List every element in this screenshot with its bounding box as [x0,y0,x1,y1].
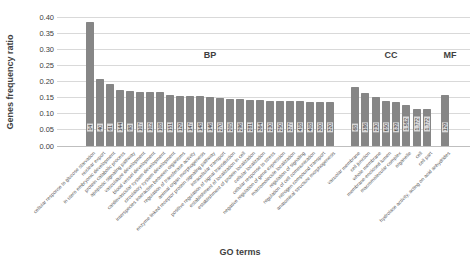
bar-value-label: 102 [147,122,153,132]
y-tick-label: 0.00 [22,142,54,151]
gridline [57,33,470,34]
go-bar-chart: Genes frequency ratio 144061144981071021… [0,0,475,272]
bar-value-label: 146 [207,122,213,132]
bar: 40 [96,79,104,146]
bar-value-label: 364 [257,122,263,132]
bar-value-label: 147 [187,122,193,132]
bar-value-label: 281 [247,122,253,132]
bar: 129 [441,95,449,146]
bar-value-label: 650 [383,122,389,132]
bar-value-label: 1,562 [403,117,409,132]
bar-value-label: 148 [197,122,203,132]
bar-value-label: 300 [317,122,323,132]
bar: 61 [106,84,114,146]
y-tick-label: 0.20 [22,77,54,86]
bar: 230 [266,101,274,146]
bar-value-label: 408 [307,122,313,132]
bar: 107 [136,92,144,146]
bar: 650 [382,101,390,146]
y-tick-label: 0.05 [22,125,54,134]
bar-value-label: 250 [277,122,283,132]
bar: 364 [256,100,264,146]
bar-value-label: 270 [217,122,223,132]
bar: 230 [372,97,380,146]
group-label-bp: BP [204,50,217,60]
bar-value-label: 108 [157,122,163,132]
bar-value-label: 377 [287,122,293,132]
bar: 250 [276,101,284,146]
gridline [57,65,470,66]
bar-value-label: 151 [167,122,173,132]
bar: 1,772 [413,109,421,146]
bar-value-label: 296 [237,122,243,132]
bar-value-label: 144 [117,122,123,132]
bar-value-label: 230 [267,122,273,132]
bar: 1,772 [423,109,431,146]
bar: 418 [296,101,304,146]
y-tick-label: 0.30 [22,45,54,54]
bar-value-label: 639 [393,122,399,132]
bar-value-label: 205 [227,122,233,132]
bar-value-label: 186 [362,122,368,132]
bar-value-label: 418 [297,122,303,132]
bar-value-label: 129 [442,122,448,132]
bar-value-label: 230 [373,122,379,132]
gridline [57,17,470,18]
bar: 148 [196,96,204,146]
bar: 270 [216,98,224,146]
y-tick-label: 0.25 [22,61,54,70]
bar: 281 [246,100,254,146]
bar: 205 [226,99,234,146]
y-tick-label: 0.35 [22,29,54,38]
bar: 377 [286,101,294,146]
bar-value-label: 1,772 [414,117,420,132]
bar: 151 [166,95,174,146]
bar: 300 [316,102,324,146]
y-axis-title: Genes frequency ratio [3,12,17,152]
group-label-cc: CC [385,50,398,60]
bar-value-label: 129 [177,122,183,132]
bar: 144 [116,90,124,146]
bar-value-label: 320 [327,122,333,132]
bar: 68 [351,87,359,146]
bar: 296 [236,99,244,146]
bar: 102 [146,92,154,146]
bar-value-label: 107 [137,122,143,132]
bar-value-label: 98 [127,124,133,132]
bar: 147 [186,96,194,146]
bar: 639 [392,102,400,146]
bar: 186 [361,93,369,146]
bar-value-label: 40 [97,124,103,132]
bar: 408 [306,102,314,146]
gridline [57,49,470,50]
bar: 108 [156,92,164,146]
gridline [57,81,470,82]
bar-value-label: 68 [352,124,358,132]
y-tick-label: 0.15 [22,93,54,102]
bar: 129 [176,96,184,146]
bar: 1,562 [402,105,410,146]
y-tick-label: 0.40 [22,13,54,22]
bar-value-label: 1,772 [424,117,430,132]
bar-value-label: 14 [87,124,93,132]
plot-area: 1440611449810710210815112914714814627020… [57,17,470,146]
bar: 320 [326,102,334,146]
bar: 14 [86,22,94,146]
bar: 146 [206,97,214,146]
bar-value-label: 61 [107,124,113,132]
group-label-mf: MF [444,50,457,60]
x-axis-title: GO terms [140,247,340,257]
y-tick-label: 0.10 [22,109,54,118]
bar: 98 [126,91,134,146]
